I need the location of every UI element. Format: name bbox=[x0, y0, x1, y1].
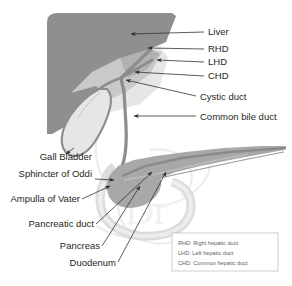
label-ampulla-of-vater: Ampulla of Vater bbox=[10, 193, 80, 204]
label-sphincter-of-oddi: Sphincter of Oddi bbox=[19, 168, 92, 179]
label-cystic-duct: Cystic duct bbox=[200, 91, 247, 102]
label-pancreas: Pancreas bbox=[60, 240, 100, 251]
label-duodenum: Duodenum bbox=[70, 257, 117, 268]
label-rhd: RHD bbox=[208, 43, 229, 54]
label-lhd: LHD bbox=[208, 56, 227, 67]
pancreas bbox=[107, 146, 286, 208]
legend-entry-rhd: RHD: Right hepatic duct bbox=[178, 240, 238, 246]
label-common-bile-duct: Common bile duct bbox=[200, 111, 277, 122]
legend-entry-lhd: LHD: Left hepatic duct bbox=[178, 250, 234, 256]
label-liver: Liver bbox=[208, 26, 229, 37]
anatomy-diagram: Dr bbox=[0, 0, 292, 286]
label-gall-bladder: Gall Bladder bbox=[40, 151, 92, 162]
legend: RHD: Right hepatic duct LHD: Left hepati… bbox=[172, 233, 278, 271]
label-pancreatic-duct: Pancreatic duct bbox=[29, 218, 95, 229]
label-chd: CHD bbox=[208, 70, 229, 81]
right-label-group: Liver RHD LHD CHD Cystic duct Common bil… bbox=[200, 26, 277, 122]
legend-entry-chd: CHD: Common hepatic duct bbox=[178, 260, 248, 266]
